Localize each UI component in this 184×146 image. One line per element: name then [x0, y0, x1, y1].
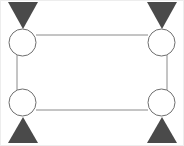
triangle-support-top-left-icon [8, 2, 38, 29]
node-top-right [148, 29, 175, 56]
support-group [8, 2, 177, 143]
node-top-left [9, 29, 36, 56]
image-frame-border [1, 1, 184, 146]
node-bottom-right [148, 89, 175, 116]
triangle-support-bottom-right-icon [147, 117, 177, 143]
diagram-canvas [0, 0, 184, 146]
triangle-support-top-right-icon [147, 2, 177, 29]
node-bottom-left [9, 89, 36, 116]
diagram-svg [0, 0, 184, 146]
triangle-support-bottom-left-icon [8, 117, 38, 143]
node-group [9, 29, 175, 116]
edge-group [17, 35, 167, 110]
